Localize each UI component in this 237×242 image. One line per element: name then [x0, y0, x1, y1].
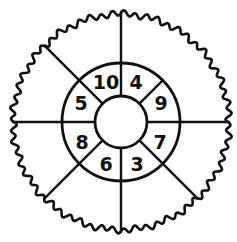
- sector-label-7: 7: [153, 131, 166, 153]
- wheel-diagram-canvas: 10 4 9 7 3 6 8 5: [0, 0, 237, 242]
- sector-label-3: 3: [130, 153, 143, 175]
- sector-label-6: 6: [99, 153, 112, 175]
- wheel-diagram-svg: 10 4 9 7 3 6 8 5: [0, 0, 237, 242]
- sector-label-8: 8: [75, 131, 88, 153]
- center-hub-group: [95, 96, 147, 148]
- center-hub-circle: [95, 96, 147, 148]
- sector-label-4: 4: [129, 71, 142, 93]
- sector-label-10: 10: [93, 71, 119, 93]
- sector-label-9: 9: [154, 92, 167, 114]
- sector-label-5: 5: [74, 92, 87, 114]
